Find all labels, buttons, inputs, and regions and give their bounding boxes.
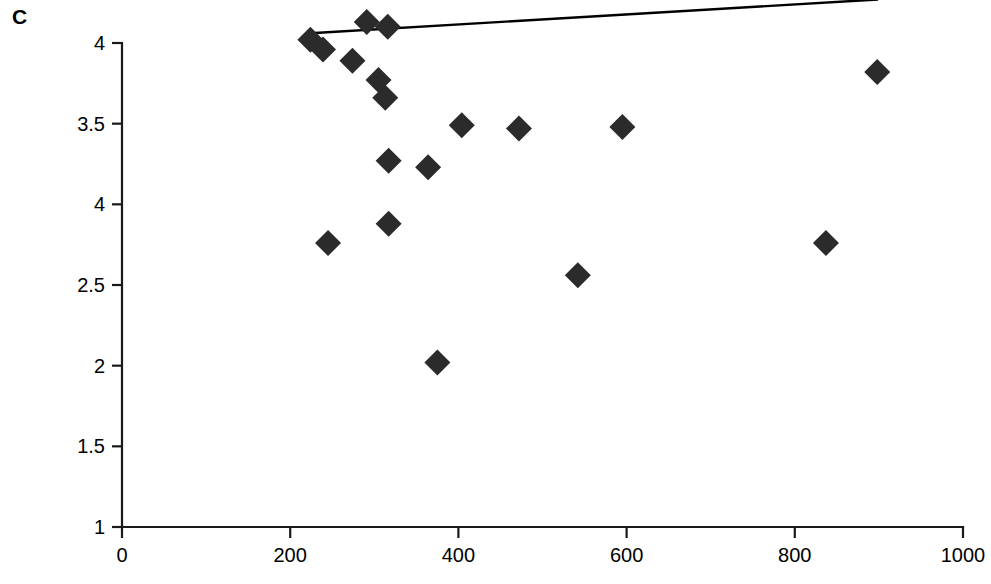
y-tick-label: 2 — [94, 355, 105, 377]
plot-canvas: 11.522.543.5402004006008001000 — [0, 0, 991, 584]
data-point-marker — [609, 114, 635, 140]
data-point-marker — [415, 154, 441, 180]
y-tick-label: 1.5 — [77, 435, 105, 457]
x-tick-label: 200 — [274, 544, 307, 566]
y-tick-label: 4 — [94, 193, 105, 215]
x-tick-label: 600 — [610, 544, 643, 566]
data-point-marker — [315, 230, 341, 256]
x-tick-label: 1000 — [941, 544, 986, 566]
x-tick-label: 400 — [442, 544, 475, 566]
data-point-marker — [506, 116, 532, 142]
y-tick-label: 1 — [94, 516, 105, 538]
data-point-marker — [376, 211, 402, 237]
data-point-marker — [424, 349, 450, 375]
data-point-marker — [864, 59, 890, 85]
data-point-marker — [339, 48, 365, 74]
data-point-marker — [813, 230, 839, 256]
scatter-plot-figure: C 11.522.543.5402004006008001000 — [0, 0, 991, 584]
y-tick-label: 2.5 — [77, 274, 105, 296]
y-tick-label: 4 — [94, 32, 105, 54]
data-point-marker — [565, 262, 591, 288]
data-point-marker — [376, 148, 402, 174]
x-tick-label: 800 — [778, 544, 811, 566]
data-point-marker — [375, 14, 401, 40]
x-tick-label: 0 — [116, 544, 127, 566]
data-point-marker — [449, 112, 475, 138]
y-tick-label: 3.5 — [77, 113, 105, 135]
